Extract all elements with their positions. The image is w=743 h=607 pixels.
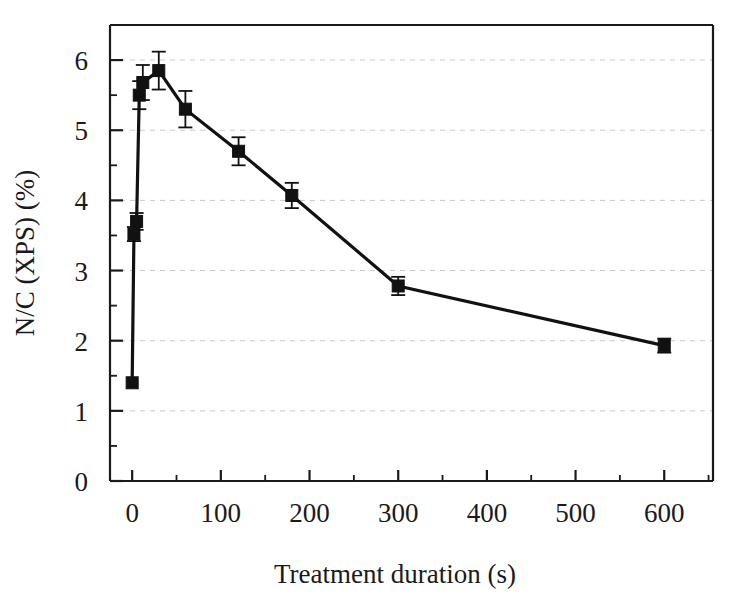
data-point-marker [179,103,191,115]
data-point-marker [131,215,143,227]
y-axis-title: N/C (XPS) (%) [10,170,40,337]
figure-container: 0100200300400500600 0123456 Treatment du… [0,0,743,607]
chart-background [0,0,743,607]
data-point-marker [128,228,140,240]
y-tick-label: 5 [75,116,89,146]
data-point-marker [286,189,298,201]
x-tick-label: 100 [201,498,242,528]
y-tick-label: 2 [75,327,89,357]
data-point-marker [153,65,165,77]
data-point-marker [133,89,145,101]
data-point-marker [392,280,404,292]
xps-line-chart: 0100200300400500600 0123456 Treatment du… [0,0,743,607]
y-tick-label: 0 [75,467,89,497]
x-tick-label: 400 [467,498,508,528]
x-tick-label: 300 [378,498,419,528]
data-point-marker [126,377,138,389]
x-axis-title: Treatment duration (s) [274,559,516,589]
data-point-marker [233,145,245,157]
data-point-marker [137,77,149,89]
x-tick-label: 600 [644,498,685,528]
y-tick-label: 3 [75,257,89,287]
y-tick-label: 6 [75,46,89,76]
y-tick-label: 4 [75,186,89,216]
x-tick-label: 0 [125,498,139,528]
x-tick-label: 200 [289,498,330,528]
data-point-marker [658,340,670,352]
y-tick-label: 1 [75,397,89,427]
x-tick-label: 500 [555,498,596,528]
